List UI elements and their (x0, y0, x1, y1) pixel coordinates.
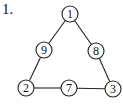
node-bottom-right: 3 (105, 81, 121, 97)
node-value: 2 (23, 81, 29, 95)
node-value: 7 (66, 81, 72, 95)
node-value: 1 (67, 7, 73, 21)
number-triangle-diagram: 198273 (0, 0, 123, 109)
node-left-mid: 9 (36, 42, 52, 58)
edge-bottom-mid-bottom-right (77, 88, 105, 89)
node-value: 3 (110, 82, 116, 96)
node-right-mid: 8 (88, 43, 104, 59)
node-top: 1 (62, 6, 78, 22)
node-bottom-mid: 7 (61, 80, 77, 96)
edge-top-right-mid (75, 21, 92, 45)
node-value: 8 (93, 44, 99, 58)
edge-left-mid-bottom-left (29, 57, 40, 81)
node-value: 9 (41, 43, 47, 57)
edge-right-mid-bottom-right (99, 58, 109, 81)
edge-top-left-mid (49, 20, 66, 43)
node-bottom-left: 2 (18, 80, 34, 96)
